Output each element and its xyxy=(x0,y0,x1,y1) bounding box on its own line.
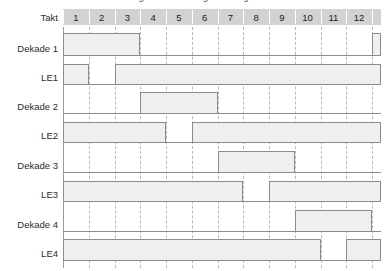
takt-tick-9[interactable]: 9 xyxy=(269,10,295,24)
takt-separator-10 xyxy=(295,10,296,24)
takt-tick-7[interactable]: 7 xyxy=(218,10,244,24)
signal-label-dekade-1: Dekade 1 xyxy=(0,43,58,54)
signal-pulse-6-1 xyxy=(63,181,243,202)
takt-separator-13 xyxy=(372,10,373,24)
signal-label-le4: LE4 xyxy=(0,248,58,259)
takt-separator-6 xyxy=(192,10,193,24)
signal-label-le2: LE2 xyxy=(0,130,58,141)
takt-tick-10[interactable]: 10 xyxy=(295,10,321,24)
signal-pulse-4-2 xyxy=(192,122,381,143)
takt-tick-12[interactable]: 12 xyxy=(346,10,372,24)
takt-tick-11[interactable]: 11 xyxy=(321,10,347,24)
signal-pulse-7-1 xyxy=(295,210,372,232)
signal-baseline-3 xyxy=(63,113,381,114)
takt-tick-1[interactable]: 1 xyxy=(63,10,89,24)
signal-label-le1: LE1 xyxy=(0,72,58,83)
takt-tick-3[interactable]: 3 xyxy=(115,10,141,24)
signal-pulse-5-1 xyxy=(218,151,295,173)
signal-pulse-8-2 xyxy=(346,239,381,261)
signal-pulse-1-1 xyxy=(63,33,140,56)
signal-label-dekade-4: Dekade 4 xyxy=(0,219,58,230)
takt-tick-5[interactable]: 5 xyxy=(166,10,192,24)
signal-pulse-2-1 xyxy=(63,64,89,85)
timing-diagram: Zeitlicher Ablauf der Ansteuerung einer … xyxy=(0,0,386,271)
takt-tick-4[interactable]: 4 xyxy=(140,10,166,24)
takt-separator-3 xyxy=(115,10,116,24)
takt-tick-2[interactable]: 2 xyxy=(89,10,115,24)
takt-separator-9 xyxy=(269,10,270,24)
takt-separator-4 xyxy=(140,10,141,24)
takt-separator-2 xyxy=(89,10,90,24)
takt-separator-1 xyxy=(63,10,64,24)
takt-separator-5 xyxy=(166,10,167,24)
signal-pulse-6-2 xyxy=(269,181,381,202)
figure-caption: Zeitlicher Ablauf der Ansteuerung einer … xyxy=(8,0,254,2)
signal-pulse-4-1 xyxy=(63,122,166,143)
takt-separator-8 xyxy=(243,10,244,24)
takt-tick-8[interactable]: 8 xyxy=(243,10,269,24)
signal-label-le3: LE3 xyxy=(0,189,58,200)
signal-pulse-2-2 xyxy=(115,64,382,85)
signal-pulse-8-1 xyxy=(63,239,321,261)
signal-pulse-1-2 xyxy=(372,33,381,56)
takt-separator-11 xyxy=(321,10,322,24)
axis-label: Takt xyxy=(0,12,58,23)
signal-pulse-3-1 xyxy=(140,92,217,114)
signal-label-dekade-2: Dekade 2 xyxy=(0,101,58,112)
signal-label-dekade-3: Dekade 3 xyxy=(0,160,58,171)
takt-separator-12 xyxy=(346,10,347,24)
takt-tick-6[interactable]: 6 xyxy=(192,10,218,24)
takt-separator-7 xyxy=(218,10,219,24)
